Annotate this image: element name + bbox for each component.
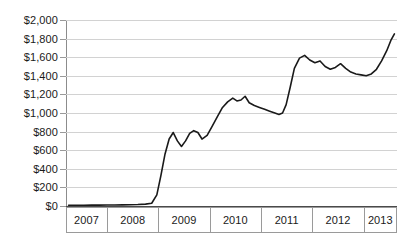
x-axis-tick-label: 2013 [368, 214, 393, 226]
x-axis-separator [107, 207, 108, 233]
x-axis-band-top-rule [66, 207, 397, 208]
x-axis-separator [210, 207, 211, 233]
y-axis-tick-label: $400 [33, 163, 58, 175]
x-axis-separator [158, 207, 159, 233]
plot-area [66, 20, 397, 206]
data-series-layer [66, 20, 397, 206]
y-axis-tick-label: $1,000 [24, 107, 58, 119]
x-axis-separator [312, 207, 313, 233]
y-axis-tick-label: $0 [46, 200, 58, 212]
y-axis-tick-labels: $0$200$400$600$800$1,000$1,200$1,400$1,6… [0, 0, 62, 251]
x-axis-tick-label: 2007 [74, 214, 99, 226]
x-axis-separator [364, 207, 365, 233]
y-axis-tick-label: $600 [33, 144, 58, 156]
x-axis-tick-label: 2009 [172, 214, 197, 226]
x-axis-tick-label: 2012 [326, 214, 351, 226]
x-axis-tick-label: 2011 [275, 214, 299, 226]
y-axis-tick-label: $800 [33, 126, 58, 138]
x-axis-band-right-edge [396, 207, 397, 233]
x-axis-band-left-edge [66, 207, 67, 233]
x-axis-separator [261, 207, 262, 233]
x-axis-tick-label: 2010 [223, 214, 248, 226]
data-line-value [69, 34, 395, 205]
y-axis-tick-label: $1,200 [24, 88, 58, 100]
x-axis-label-band: 2007200820092010201120122013 [66, 207, 397, 233]
y-axis-tick-label: $2,000 [24, 14, 58, 26]
y-axis-tick-label: $1,800 [24, 33, 58, 45]
y-axis-tick-label: $1,600 [24, 51, 58, 63]
x-axis-band-bottom-rule [66, 232, 397, 233]
x-axis-tick-label: 2008 [120, 214, 145, 226]
y-axis-tick-label: $1,400 [24, 70, 58, 82]
line-chart: $0$200$400$600$800$1,000$1,200$1,400$1,6… [0, 0, 419, 251]
y-axis-tick-label: $200 [33, 181, 58, 193]
